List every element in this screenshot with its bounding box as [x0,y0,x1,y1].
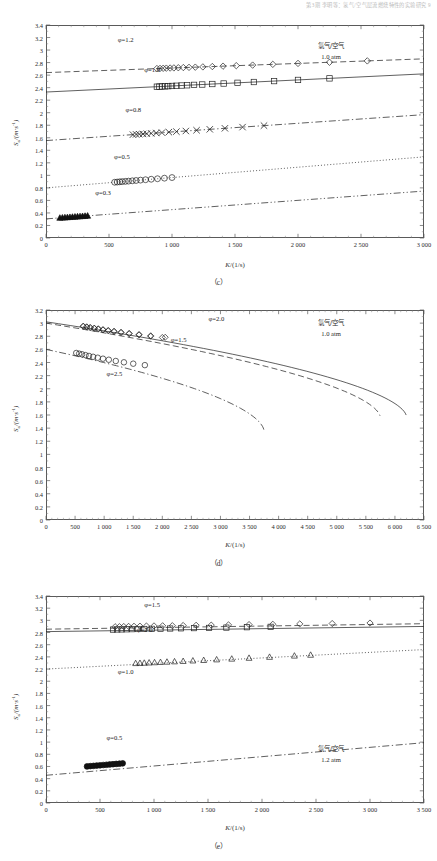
y-axis-tick-label: 2 [18,385,43,392]
x-axis-label-c: K/(1/s) [46,261,424,269]
y-axis-tick-label: 2.4 [18,84,43,91]
chart-panel-e: Su/(m·s-1) 05001 0001 5002 0002 5003 000… [0,586,437,861]
y-axis-tick-label: 1.2 [18,159,43,166]
series-label-c-4: φ=0.3 [95,189,111,196]
conditions-note-e: 氢气/空气 1.2 atm [318,744,344,765]
x-axis-tick-label: 500 [70,523,80,530]
y-axis-tick-label: 0.8 [18,751,43,758]
y-axis-tick-label: 3.4 [18,593,43,600]
y-axis-tick-label: 0.4 [18,490,43,497]
x-axis-tick-label: 3 000 [417,241,431,248]
x-axis-tick-label: 2 000 [255,806,269,813]
x-axis-tick-label: 2 500 [309,806,323,813]
y-axis-tick-label: 3 [18,320,43,327]
x-axis-tick-label: 1 500 [201,806,215,813]
x-axis-tick-label: 5 000 [330,523,344,530]
y-axis-tick-label: 1 [18,172,43,179]
y-axis-tick-label: 1.6 [18,702,43,709]
y-axis-tick-label: 2.8 [18,629,43,636]
y-axis-tick-label: 0.4 [18,775,43,782]
plot-area-c: 05001 0001 5002 0002 5003 00000.20.40.60… [46,25,424,238]
y-axis-tick-label: 3.2 [18,307,43,314]
y-axis-tick-label: 1.6 [18,134,43,141]
conditions-note-d: 氢气/空气 1.0 atm [318,318,344,339]
x-axis-label-e: K/(1/s) [46,824,424,832]
x-axis-tick-label: 0 [44,523,47,530]
series-label-e-1: φ=2.0 [137,626,153,633]
y-axis-tick-label: 0.2 [18,787,43,794]
y-axis-tick-label: 2.8 [18,59,43,66]
x-axis-tick-label: 3 000 [213,523,227,530]
y-axis-tick-label: 1.4 [18,147,43,154]
x-axis-tick-label: 6 500 [417,523,431,530]
y-axis-tick-label: 1.2 [18,726,43,733]
y-axis-tick-label: 0.2 [18,503,43,510]
series-label-e-0: φ=1.5 [144,601,160,608]
y-axis-tick-label: 0 [18,235,43,242]
x-axis-label-d: K/(1/s) [46,541,424,549]
y-axis-tick-label: 2.4 [18,359,43,366]
x-axis-tick-label: 5 500 [359,523,373,530]
y-axis-tick-label: 0.6 [18,197,43,204]
x-axis-tick-label: 2 500 [184,523,198,530]
x-axis-tick-label: 4 000 [271,523,285,530]
y-axis-tick-label: 0 [18,517,43,524]
x-axis-tick-label: 3 500 [242,523,256,530]
y-axis-tick-label: 1.8 [18,122,43,129]
y-axis-tick-label: 1.8 [18,690,43,697]
x-axis-tick-label: 3 500 [417,806,431,813]
panel-caption-c: （c） [0,276,437,287]
plot-area-d: 05001 0001 5002 0002 5003 0003 5004 0004… [46,310,424,520]
y-axis-tick-label: 2.6 [18,72,43,79]
y-axis-tick-label: 1.8 [18,398,43,405]
y-axis-tick-label: 1.4 [18,425,43,432]
y-axis-tick-label: 2.2 [18,372,43,379]
y-axis-tick-label: 2.8 [18,333,43,340]
y-axis-tick-label: 3 [18,47,43,54]
x-axis-tick-label: 2 500 [354,241,368,248]
y-axis-tick-label: 2 [18,109,43,116]
x-axis-tick-label: 1 500 [126,523,140,530]
series-label-d-1: φ=1.5 [171,336,187,343]
x-axis-tick-label: 500 [104,241,114,248]
y-axis-tick-label: 1.4 [18,714,43,721]
running-head: 第3期 李明等：氢气/空气层流燃烧特性的实验研究 9 [306,1,431,8]
x-axis-tick-label: 0 [44,241,47,248]
y-axis-tick-label: 0.6 [18,763,43,770]
y-axis-tick-label: 2.2 [18,666,43,673]
x-axis-tick-label: 1 500 [228,241,242,248]
x-axis-tick-label: 1 000 [165,241,179,248]
y-axis-tick-label: 1 [18,739,43,746]
y-axis-tick-label: 2.6 [18,346,43,353]
y-axis-tick-label: 3.4 [18,22,43,29]
y-axis-tick-label: 0.8 [18,464,43,471]
panel-caption-d: （d） [0,557,437,568]
y-axis-tick-label: 2.4 [18,653,43,660]
y-axis-tick-label: 1.2 [18,438,43,445]
chart-panel-d: Su/(m·s-1) 05001 0001 5002 0002 5003 000… [0,296,437,580]
x-axis-tick-label: 0 [44,806,47,813]
y-axis-tick-label: 2 [18,678,43,685]
y-axis-tick-label: 3.2 [18,605,43,612]
y-axis-tick-label: 0 [18,800,43,807]
series-label-c-1: φ=1.0 [144,66,160,73]
series-label-c-0: φ=1.2 [118,36,134,43]
y-axis-tick-label: 2.6 [18,641,43,648]
y-axis-tick-label: 3 [18,617,43,624]
y-axis-tick-label: 0.8 [18,184,43,191]
y-axis-tick-label: 0.4 [18,209,43,216]
plot-area-e: 05001 0001 5002 0002 5003 0003 50000.20.… [46,596,424,803]
x-axis-tick-label: 500 [95,806,105,813]
series-label-d-2: φ=2.5 [106,370,122,377]
x-axis-tick-label: 6 000 [388,523,402,530]
series-label-e-3: φ=0.5 [106,734,122,741]
panel-caption-e: （e） [0,840,437,851]
series-label-e-2: φ=1.0 [118,668,134,675]
y-axis-tick-label: 3.2 [18,34,43,41]
x-axis-tick-label: 1 000 [147,806,161,813]
y-axis-tick-label: 1.6 [18,412,43,419]
x-axis-tick-label: 2 000 [155,523,169,530]
x-axis-tick-label: 2 000 [291,241,305,248]
series-label-c-3: φ=0.5 [114,153,130,160]
figure-page: 第3期 李明等：氢气/空气层流燃烧特性的实验研究 9 Su/(m·s-1) 05… [0,0,437,861]
